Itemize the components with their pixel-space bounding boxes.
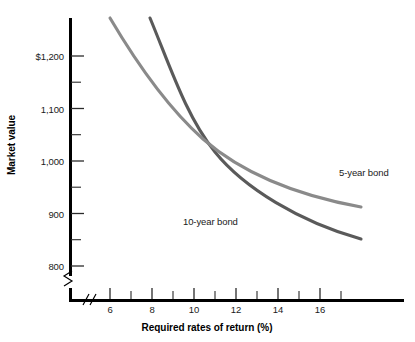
x-tick-label-6: 6: [107, 304, 112, 315]
x-tick-label-12: 12: [231, 304, 241, 315]
series-curve-5-year-bond: [110, 18, 361, 207]
chart-figure: $1,200 1,100 1,000 900 800 6 8 10 12 14 …: [0, 0, 415, 342]
x-tick-label-10: 10: [189, 304, 199, 315]
series-label-10-year-bond: 10-year bond: [183, 216, 238, 227]
x-tick-label-16: 16: [315, 304, 325, 315]
y-axis-title: Market value: [6, 115, 17, 175]
y-axis-major-ticks: [71, 56, 84, 266]
series-label-5-year-bond: 5-year bond: [339, 167, 389, 178]
y-tick-label-1200: $1,200: [22, 51, 64, 62]
y-tick-label-900: 900: [22, 208, 64, 219]
y-tick-label-1000: 1,000: [22, 156, 64, 167]
x-axis-title: Required rates of return (%): [142, 322, 273, 333]
x-tick-label-8: 8: [149, 304, 154, 315]
series-curve-10-year-bond: [150, 18, 361, 239]
y-tick-label-800: 800: [22, 261, 64, 272]
y-tick-label-1100: 1,100: [22, 103, 64, 114]
x-tick-label-14: 14: [273, 304, 283, 315]
